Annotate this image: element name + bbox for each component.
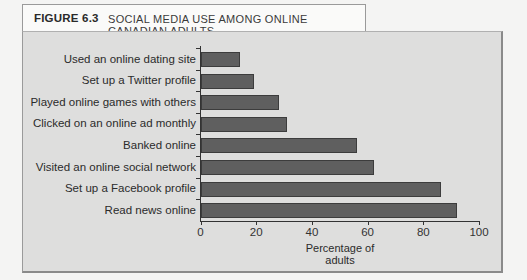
y-tick bbox=[196, 48, 200, 49]
x-tick-label: 20 bbox=[236, 226, 276, 238]
x-tick-label: 80 bbox=[403, 226, 443, 238]
y-tick bbox=[196, 178, 200, 179]
y-tick bbox=[196, 91, 200, 92]
x-tick-label: 60 bbox=[348, 226, 388, 238]
x-tick bbox=[479, 221, 480, 225]
category-label: Set up a Twitter profile bbox=[82, 74, 196, 86]
x-tick bbox=[201, 221, 202, 225]
x-tick-label: 100 bbox=[459, 226, 499, 238]
x-axis bbox=[200, 221, 480, 222]
x-tick bbox=[423, 221, 424, 225]
category-label: Read news online bbox=[105, 204, 196, 216]
x-tick-label: 40 bbox=[292, 226, 332, 238]
category-label: Played online games with others bbox=[30, 96, 196, 108]
y-tick bbox=[196, 199, 200, 200]
y-tick bbox=[196, 134, 200, 135]
bar bbox=[201, 182, 441, 197]
bar bbox=[201, 138, 357, 153]
x-tick bbox=[256, 221, 257, 225]
bar bbox=[201, 160, 374, 175]
category-label: Visited an online social network bbox=[36, 161, 196, 173]
x-tick-label: 0 bbox=[181, 226, 221, 238]
bar bbox=[201, 74, 254, 89]
category-label: Banked online bbox=[123, 139, 196, 151]
category-label: Clicked on an online ad monthly bbox=[33, 117, 196, 129]
x-tick bbox=[312, 221, 313, 225]
bar bbox=[201, 95, 279, 110]
x-axis-label: Percentage of adults bbox=[290, 242, 390, 266]
figure-header: FIGURE 6.3 SOCIAL MEDIA USE AMONG ONLINE… bbox=[22, 4, 366, 31]
y-tick bbox=[196, 113, 200, 114]
bar bbox=[201, 52, 240, 67]
y-tick bbox=[196, 70, 200, 71]
y-tick bbox=[196, 156, 200, 157]
x-tick bbox=[368, 221, 369, 225]
bar bbox=[201, 117, 287, 132]
bar bbox=[201, 203, 457, 218]
category-label: Used an online dating site bbox=[64, 53, 196, 65]
figure-number: FIGURE 6.3 bbox=[34, 12, 99, 24]
category-label: Set up a Facebook profile bbox=[65, 182, 196, 194]
